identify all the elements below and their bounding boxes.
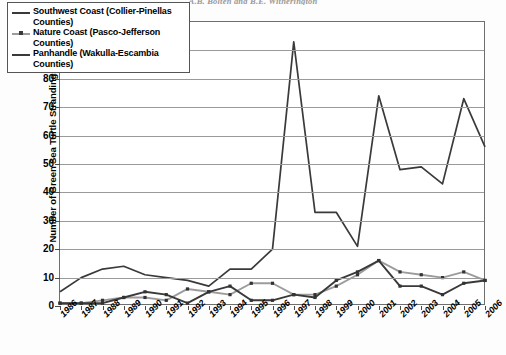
data-point-marker xyxy=(313,296,316,299)
data-point-marker xyxy=(462,282,465,285)
data-point-marker xyxy=(228,285,231,288)
x-axis-tick-label: 2006 xyxy=(483,298,504,319)
data-point-marker xyxy=(292,293,295,296)
legend-marker-dot xyxy=(19,31,23,35)
data-point-marker xyxy=(335,279,338,282)
y-axis-tick-label: 20 xyxy=(2,243,54,254)
data-point-marker xyxy=(58,302,61,305)
gridline xyxy=(60,164,484,165)
y-axis-tick-mark xyxy=(55,192,60,193)
chart-page: A.B. Bolten and B.E. Witherington Number… xyxy=(0,0,506,355)
data-point-marker xyxy=(101,299,104,302)
data-point-marker xyxy=(207,290,210,293)
gridline xyxy=(60,136,484,137)
legend-label-southwest-coast: Southwest Coast (Collier-Pinellas Counti… xyxy=(33,6,184,27)
gridline xyxy=(60,192,484,193)
data-point-marker xyxy=(441,293,444,296)
data-point-marker xyxy=(356,270,359,273)
legend-item-nature-coast: Nature Coast (Pasco-Jefferson Counties) xyxy=(11,27,184,48)
data-point-marker xyxy=(271,299,274,302)
data-point-marker xyxy=(398,270,401,273)
data-point-marker xyxy=(420,285,423,288)
y-axis-tick-label: 80 xyxy=(2,73,54,84)
gridline xyxy=(60,107,484,108)
y-axis-tick-mark xyxy=(55,221,60,222)
data-point-marker xyxy=(143,290,146,293)
y-axis-tick-label: 10 xyxy=(2,272,54,283)
data-point-marker xyxy=(80,302,83,305)
legend: Southwest Coast (Collier-Pinellas Counti… xyxy=(7,2,190,73)
data-point-marker xyxy=(165,299,168,302)
gridline xyxy=(60,79,484,80)
y-axis-tick-label: 0 xyxy=(2,300,54,311)
data-point-marker xyxy=(335,285,338,288)
y-axis-tick-label: 70 xyxy=(2,101,54,112)
y-axis-tick-mark xyxy=(55,249,60,250)
y-axis-tick-mark xyxy=(55,136,60,137)
gridline xyxy=(60,221,484,222)
data-point-marker xyxy=(186,302,189,305)
y-axis-tick-mark xyxy=(55,107,60,108)
legend-label-panhandle: Panhandle (Wakulla-Escambia Counties) xyxy=(33,48,184,69)
gridline xyxy=(60,278,484,279)
data-point-marker xyxy=(101,302,104,305)
data-point-marker xyxy=(228,293,231,296)
legend-item-panhandle: Panhandle (Wakulla-Escambia Counties) xyxy=(11,48,184,69)
data-point-marker xyxy=(398,285,401,288)
y-axis-tick-mark xyxy=(55,164,60,165)
y-axis-tick-mark xyxy=(55,79,60,80)
data-point-marker xyxy=(377,259,380,262)
y-axis-tick-label: 40 xyxy=(2,186,54,197)
y-axis-tick-label: 60 xyxy=(2,130,54,141)
legend-swatch-southwest-coast xyxy=(11,7,31,18)
data-point-marker xyxy=(483,279,486,282)
gridline xyxy=(60,249,484,250)
data-point-marker xyxy=(186,287,189,290)
y-axis-tick-label: 30 xyxy=(2,215,54,226)
y-axis-tick-mark xyxy=(55,278,60,279)
data-point-marker xyxy=(271,282,274,285)
data-point-marker xyxy=(250,299,253,302)
data-point-marker xyxy=(420,273,423,276)
legend-label-nature-coast: Nature Coast (Pasco-Jefferson Counties) xyxy=(33,27,184,48)
legend-swatch-panhandle xyxy=(11,49,31,60)
data-point-marker xyxy=(356,273,359,276)
data-point-marker xyxy=(165,293,168,296)
legend-item-southwest-coast: Southwest Coast (Collier-Pinellas Counti… xyxy=(11,6,184,27)
data-point-marker xyxy=(143,296,146,299)
data-point-marker xyxy=(462,270,465,273)
y-axis-tick-label: 50 xyxy=(2,158,54,169)
data-point-marker xyxy=(250,282,253,285)
legend-swatch-nature-coast xyxy=(11,28,31,39)
data-point-marker xyxy=(122,296,125,299)
